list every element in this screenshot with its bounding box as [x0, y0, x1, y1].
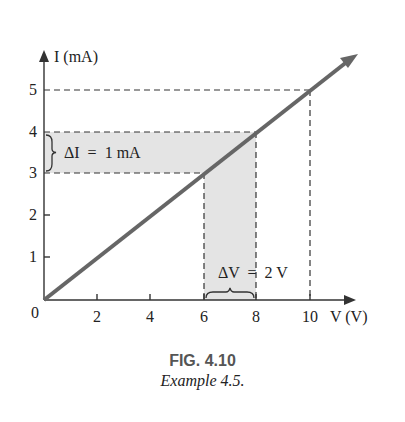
y-tick-4: 4	[29, 123, 37, 140]
iv-line	[44, 61, 348, 300]
x-axis-label: V (V)	[330, 308, 367, 326]
y-tick-5: 5	[29, 81, 37, 98]
x-tick-8: 8	[252, 308, 260, 325]
figure-caption: Example 4.5.	[0, 372, 405, 390]
x-tick-10: 10	[302, 308, 318, 325]
x-tick-6: 6	[200, 308, 208, 325]
x-tick-4: 4	[146, 308, 154, 325]
x-tick-2: 2	[93, 308, 101, 325]
y-tick-1: 1	[29, 248, 37, 265]
delta-i-label: ΔI = 1 mA	[64, 144, 141, 161]
figure-number: FIG. 4.10	[0, 352, 405, 370]
y-axis-label: I (mA)	[54, 48, 98, 66]
y-tick-3: 3	[29, 164, 37, 181]
y-axis-arrow-icon	[39, 50, 49, 62]
x-axis-arrow-icon	[344, 295, 356, 305]
origin-label: 0	[31, 304, 39, 321]
delta-v-label: ΔV = 2 V	[218, 264, 288, 281]
y-tick-2: 2	[29, 206, 37, 223]
